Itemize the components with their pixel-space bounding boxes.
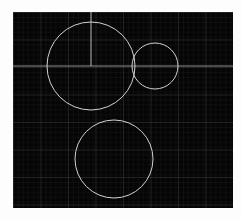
app-root [0, 0, 242, 219]
grid-overlay [13, 12, 233, 208]
plot-svg [13, 12, 233, 208]
grid-plot-canvas[interactable] [13, 12, 233, 208]
